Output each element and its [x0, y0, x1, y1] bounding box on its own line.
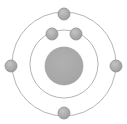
bohr-atom-svg [0, 0, 127, 124]
inner-electron-left-icon [46, 28, 58, 40]
outer-electron-bottom-icon [58, 107, 70, 119]
nucleus-group [45, 47, 83, 85]
outer-electron-right-icon [110, 60, 122, 72]
atom-diagram-figure: o r 2 [0, 0, 127, 124]
outer-electron-left-icon [5, 60, 17, 72]
nucleus [45, 47, 83, 85]
inner-electron-right-icon [70, 28, 82, 40]
outer-electron-top-icon [58, 8, 70, 20]
